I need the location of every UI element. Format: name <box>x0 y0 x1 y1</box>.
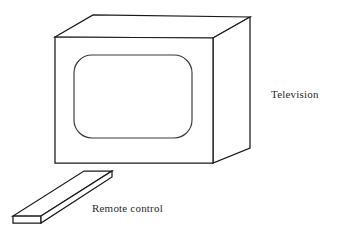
television-object <box>55 15 250 163</box>
diagram-canvas: Television Remote control <box>0 0 339 239</box>
television-screen <box>74 55 192 138</box>
label-remote-control: Remote control <box>92 202 163 215</box>
label-television: Television <box>271 88 319 101</box>
television-right-face <box>213 17 250 163</box>
remote-control-object <box>13 171 112 223</box>
television-remote-diagram <box>0 0 339 239</box>
remote-control-front-edge <box>13 216 41 223</box>
